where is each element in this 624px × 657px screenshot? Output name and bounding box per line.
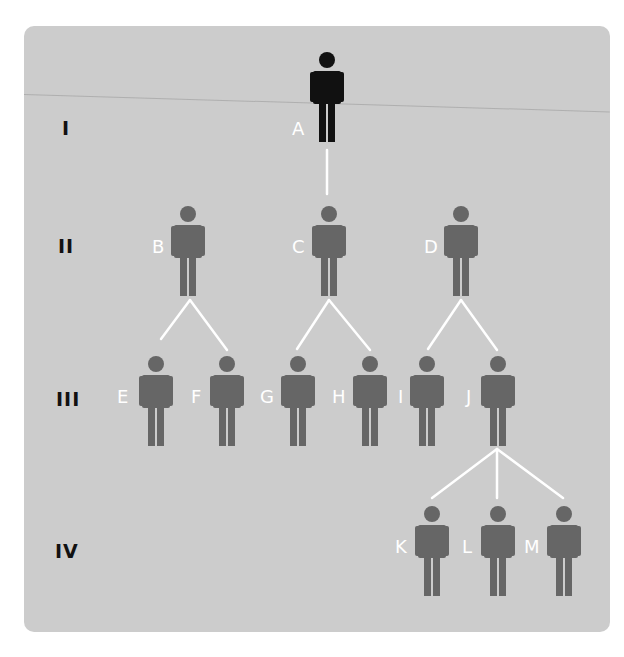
person-l [478, 504, 518, 604]
edge-C-H [329, 300, 370, 350]
person-label-c: C [292, 236, 305, 257]
person-icon [412, 504, 452, 604]
edge-B-F [190, 300, 227, 350]
generation-label-iii: III [56, 388, 80, 410]
person-m [544, 504, 584, 604]
person-label-j: J [466, 386, 471, 407]
edge-B-E [161, 300, 190, 339]
person-label-l: L [462, 536, 472, 557]
edge-J-M [497, 449, 563, 498]
person-a [307, 50, 347, 150]
edge-J-K [432, 449, 497, 498]
person-label-f: F [191, 386, 201, 407]
generation-label-ii: II [58, 235, 74, 257]
edge-C-G [297, 300, 329, 349]
person-h [350, 354, 390, 454]
person-k [412, 504, 452, 604]
person-c [309, 204, 349, 304]
person-icon [168, 204, 208, 304]
generation-label-i: I [62, 117, 70, 139]
person-j [478, 354, 518, 454]
person-label-b: B [152, 236, 164, 257]
person-icon [278, 354, 318, 454]
person-label-d: D [424, 236, 438, 257]
person-label-g: G [260, 386, 274, 407]
generation-label-iv: IV [55, 540, 79, 562]
edge-D-J [461, 300, 497, 350]
person-icon [478, 354, 518, 454]
person-label-i: I [398, 386, 403, 407]
person-icon [350, 354, 390, 454]
person-label-e: E [117, 386, 128, 407]
person-icon [478, 504, 518, 604]
person-label-a: A [292, 118, 304, 139]
person-label-k: K [395, 536, 407, 557]
person-label-m: M [524, 536, 540, 557]
person-icon [441, 204, 481, 304]
person-b [168, 204, 208, 304]
person-icon [207, 354, 247, 454]
person-e [136, 354, 176, 454]
person-icon [307, 50, 347, 150]
person-f [207, 354, 247, 454]
person-icon [544, 504, 584, 604]
person-d [441, 204, 481, 304]
person-icon [136, 354, 176, 454]
person-icon [309, 204, 349, 304]
person-g [278, 354, 318, 454]
person-label-h: H [332, 386, 346, 407]
person-icon [407, 354, 447, 454]
person-i [407, 354, 447, 454]
edge-D-I [428, 300, 461, 349]
